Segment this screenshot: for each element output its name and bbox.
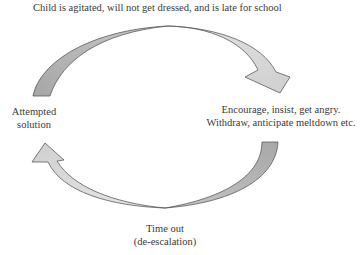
node-top-line-1: Child is agitated, will not get dressed,… [33, 1, 364, 14]
arc-tail-top-left [33, 26, 168, 96]
node-left-line-1: Attempted [5, 105, 63, 118]
node-bottom-label: Time out (de-escalation) [110, 222, 220, 248]
node-bottom-line-2: (de-escalation) [110, 235, 220, 248]
arrow-top-right [168, 26, 290, 93]
node-left-line-2: solution [5, 118, 63, 131]
arc-tail-bottom-right [165, 142, 278, 208]
node-right-label: Encourage, insist, get angry. Withdraw, … [198, 103, 364, 129]
node-right-line-2: Withdraw, anticipate meltdown etc. [198, 116, 364, 129]
node-bottom-line-1: Time out [110, 222, 220, 235]
cycle-diagram: Child is agitated, will not get dressed,… [0, 0, 364, 255]
node-top-label: Child is agitated, will not get dressed,… [0, 1, 364, 14]
node-right-line-1: Encourage, insist, get angry. [198, 103, 364, 116]
arrow-bottom-left [32, 143, 165, 208]
node-left-label: Attempted solution [5, 105, 63, 131]
